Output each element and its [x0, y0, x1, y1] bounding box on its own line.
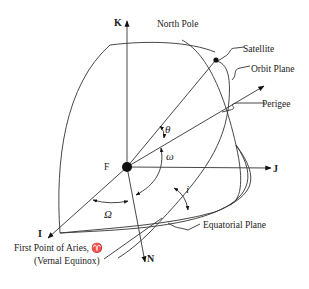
orbit-plane-label: Orbit Plane — [251, 64, 295, 74]
perigee-label: Perigee — [262, 99, 291, 109]
focus-dot — [122, 162, 132, 172]
j-axis-label: J — [273, 163, 278, 174]
satellite-label: Satellite — [243, 44, 274, 54]
omega-arc — [136, 148, 162, 195]
raan-arc — [93, 200, 128, 203]
orbit-plane-callout — [232, 66, 250, 80]
satellite-dot — [213, 57, 218, 62]
j-axis — [127, 167, 271, 168]
equatorial-callout — [168, 223, 200, 230]
omega-label: ω — [166, 150, 174, 162]
satellite-callout — [218, 47, 244, 61]
equatorial-plane-label: Equatorial Plane — [203, 220, 266, 230]
k-axis-label: K — [114, 17, 122, 28]
perigee-line — [127, 86, 264, 167]
celestial-sphere-outline — [59, 42, 248, 233]
i-axis-label: I — [38, 228, 42, 239]
origin-label: F — [104, 162, 109, 172]
theta-label: θ — [165, 123, 171, 135]
n-axis-label: N — [147, 253, 155, 264]
raan-label: Ω — [104, 208, 112, 220]
n-axis — [127, 167, 145, 262]
inclination-label: i — [186, 183, 189, 195]
north-pole-label: North Pole — [157, 19, 198, 29]
theta-arc — [160, 126, 164, 138]
vernal-equinox-label: (Vernal Equinox) — [34, 256, 100, 267]
orbital-elements-diagram: K J I N F North Pole Satellite Orbit Pla… — [0, 0, 309, 289]
aries-label: First Point of Aries, ♈ — [14, 242, 103, 254]
